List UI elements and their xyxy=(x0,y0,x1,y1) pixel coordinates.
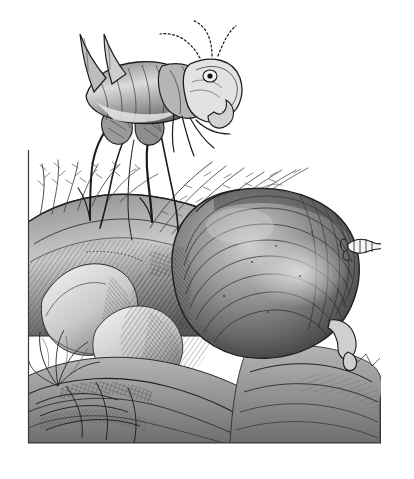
insect-eye xyxy=(203,70,217,82)
bulb-ground-shelf xyxy=(230,345,382,443)
engraving-plate xyxy=(0,0,414,479)
engraving-canvas xyxy=(0,0,414,479)
